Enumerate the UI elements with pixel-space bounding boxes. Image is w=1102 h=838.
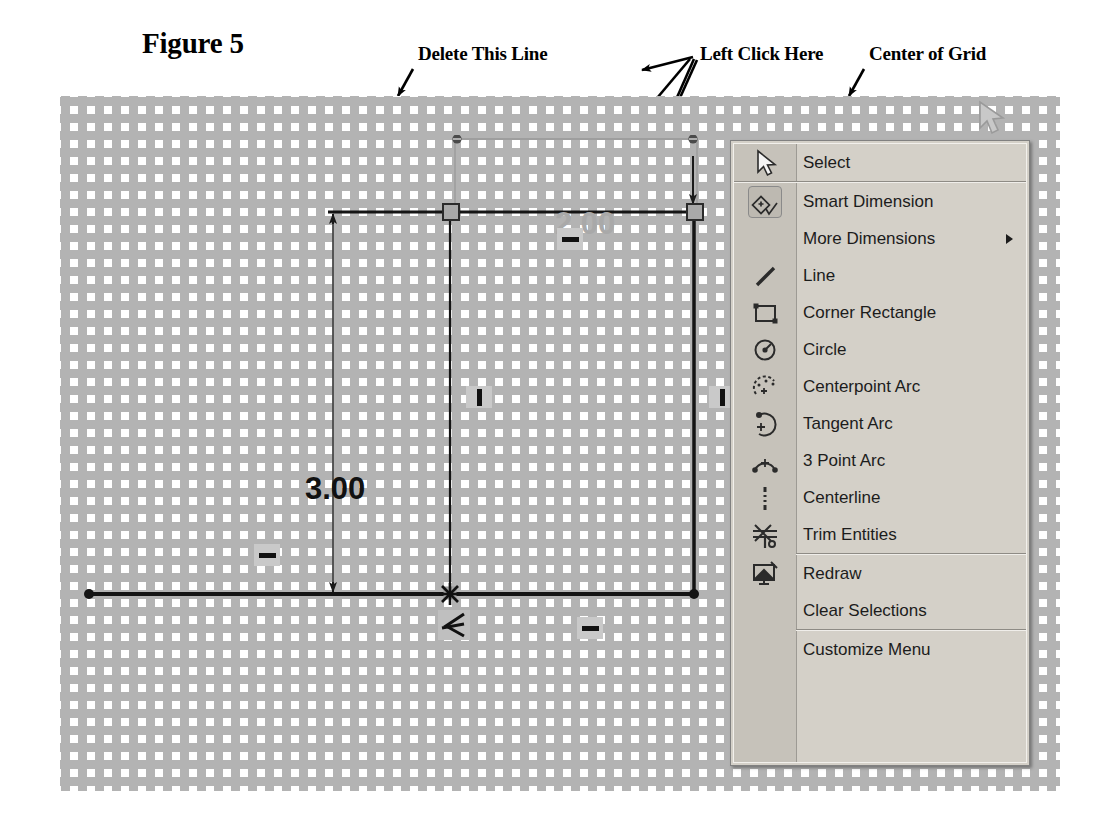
menu-item-label: More Dimensions [796, 229, 935, 249]
tangent-arc-icon [734, 405, 796, 442]
vertical-dimension-value[interactable]: 3.00 [305, 471, 365, 507]
trim-entities-icon [734, 516, 796, 553]
menu-item-label: Tangent Arc [796, 414, 893, 434]
menu-item-label: Line [796, 266, 835, 286]
menu-item-corner-rectangle[interactable]: Corner Rectangle [734, 294, 1026, 331]
menu-item-centerline[interactable]: Centerline [734, 479, 1026, 516]
submenu-chevron-right-icon [1006, 234, 1013, 244]
rectangle-icon [734, 294, 796, 331]
menu-separator [796, 629, 1026, 631]
menu-item-label: Circle [796, 340, 846, 360]
menu-item-icon-placeholder [734, 631, 796, 668]
menu-item-label: 3 Point Arc [796, 451, 885, 471]
menu-item-centerpoint-arc[interactable]: Centerpoint Arc [734, 368, 1026, 405]
redraw-icon [734, 555, 796, 592]
menu-item-label: Select [796, 153, 850, 173]
line-icon [734, 257, 796, 294]
context-menu-items: Select Smart DimensionMore DimensionsLin… [734, 144, 1026, 668]
context-menu-inner: Select Smart DimensionMore DimensionsLin… [733, 143, 1027, 763]
menu-item-label: Centerpoint Arc [796, 377, 920, 397]
horizontal-constraint-bottom-left[interactable] [254, 544, 280, 566]
menu-item-label: Redraw [796, 564, 862, 584]
menu-item-smart-dimension[interactable]: Smart Dimension [734, 183, 1026, 220]
cursor-arrow-icon [734, 144, 796, 181]
circle-icon [734, 331, 796, 368]
smart-dimension-icon [734, 183, 796, 220]
menu-item-tangent-arc[interactable]: Tangent Arc [734, 405, 1026, 442]
centerline-icon [734, 479, 796, 516]
mouse-cursor-icon [976, 100, 1016, 138]
menu-item-label: Customize Menu [796, 640, 931, 660]
vertical-dimension-graphic [330, 212, 338, 592]
coincident-relation-icon[interactable] [438, 610, 470, 640]
three-point-arc-icon [734, 442, 796, 479]
horizontal-bar-glyph-icon [562, 237, 579, 242]
menu-item-label: Clear Selections [796, 601, 927, 621]
menu-item-more-dimensions[interactable]: More Dimensions [734, 220, 1026, 257]
menu-item-circle[interactable]: Circle [734, 331, 1026, 368]
endpoint-handles [84, 204, 703, 599]
menu-item-customize-menu[interactable]: Customize Menu [734, 631, 1026, 668]
origin-marker [439, 583, 461, 605]
context-menu[interactable]: Select Smart DimensionMore DimensionsLin… [730, 140, 1030, 766]
horizontal-constraint-top[interactable] [557, 228, 583, 250]
menu-item-icon-placeholder [734, 592, 796, 629]
horizontal-bar-glyph-icon [582, 626, 599, 631]
horizontal-constraint-bottom-right[interactable] [577, 617, 603, 639]
menu-item-icon-placeholder [734, 220, 796, 257]
vertical-bar-glyph-icon [477, 389, 482, 406]
vertical-bar-glyph-icon [720, 389, 725, 406]
menu-item-trim-entities[interactable]: Trim Entities [734, 516, 1026, 553]
vertical-constraint-left[interactable] [466, 386, 492, 408]
menu-item-select[interactable]: Select [734, 144, 1026, 181]
menu-separator [796, 553, 1026, 555]
centerpoint-arc-icon [734, 368, 796, 405]
menu-item-label: Trim Entities [796, 525, 897, 545]
menu-item-label: Corner Rectangle [796, 303, 936, 323]
menu-item-label: Smart Dimension [796, 192, 933, 212]
figure-root: Figure 5 Delete This Line Left Click Her… [0, 0, 1102, 838]
menu-item-line[interactable]: Line [734, 257, 1026, 294]
menu-item-3-point-arc[interactable]: 3 Point Arc [734, 442, 1026, 479]
rectangle-geometry [88, 212, 694, 594]
horizontal-dimension-graphic [455, 139, 697, 216]
horizontal-bar-glyph-icon [259, 553, 276, 558]
menu-item-clear-selections[interactable]: Clear Selections [734, 592, 1026, 629]
menu-item-label: Centerline [796, 488, 881, 508]
menu-item-redraw[interactable]: Redraw [734, 555, 1026, 592]
